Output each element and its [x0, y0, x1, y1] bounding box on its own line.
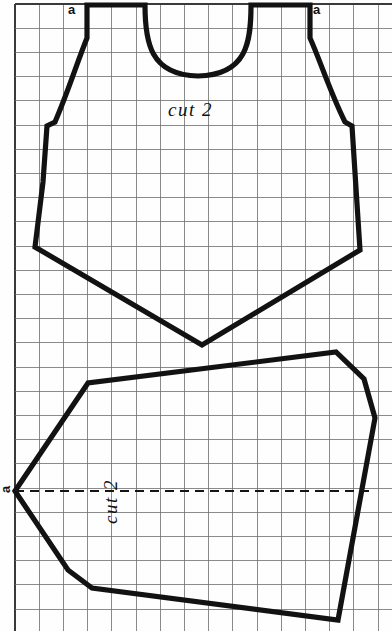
pattern-sheet: a a a cut 2 cut 2 [0, 0, 392, 631]
notch-label-a-lower-left: a [0, 486, 12, 493]
pattern-outline-bodice[interactable] [35, 5, 360, 345]
notch-label-a-top-left: a [68, 3, 75, 16]
pattern-outline-lower[interactable] [15, 352, 375, 620]
cut-instruction-bottom-panel: cut 2 [101, 479, 120, 524]
notch-label-a-top-right: a [313, 3, 320, 16]
pattern-outlines [0, 0, 392, 631]
cut-instruction-bodice: cut 2 [168, 100, 213, 119]
